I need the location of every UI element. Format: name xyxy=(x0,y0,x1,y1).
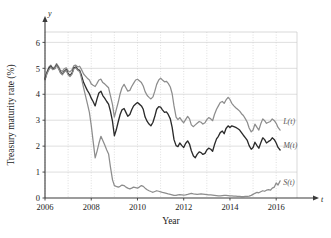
x-axis-arrow xyxy=(313,195,319,200)
y-tick-label: 1 xyxy=(36,167,40,177)
y-tick-label: 6 xyxy=(36,38,40,48)
x-tick-label: 2008 xyxy=(83,202,100,212)
x-axis-title: Year xyxy=(162,216,180,226)
treasury-maturity-rate-chart: ty0123456200620082010201220142016YearTre… xyxy=(0,0,331,238)
series-annotation-st: S(t) xyxy=(283,178,295,187)
series-annotation-lt: L(t) xyxy=(282,117,295,126)
series-annotation-mt: M(t) xyxy=(282,141,298,150)
x-tick-label: 2006 xyxy=(37,202,54,212)
series-line-mt xyxy=(45,65,280,158)
y-tick-label: 2 xyxy=(36,141,40,151)
x-axis-variable-label: t xyxy=(321,195,324,204)
figure-container: ty0123456200620082010201220142016YearTre… xyxy=(0,0,331,238)
x-tick-label: 2014 xyxy=(221,202,239,212)
x-tick-label: 2016 xyxy=(268,202,285,212)
x-tick-label: 2010 xyxy=(129,202,146,212)
x-tick-label: 2012 xyxy=(175,202,192,212)
y-tick-label: 3 xyxy=(36,115,40,125)
series-line-st xyxy=(45,66,280,197)
y-axis-arrow xyxy=(42,16,47,22)
y-axis-variable-label: y xyxy=(47,9,52,18)
y-tick-label: 4 xyxy=(36,89,41,99)
y-axis-title: Treasury maturity rate (%) xyxy=(6,64,17,165)
y-tick-label: 5 xyxy=(36,64,40,74)
